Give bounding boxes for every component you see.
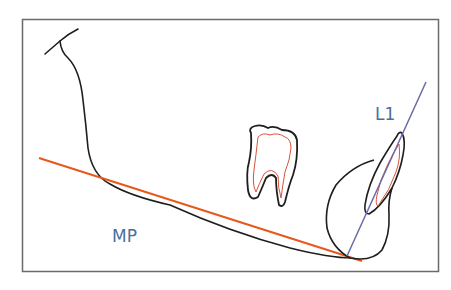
molar-tooth xyxy=(247,125,297,206)
mp-label: MP xyxy=(112,226,137,246)
mandibular-plane-line xyxy=(39,158,362,261)
mandible-outline xyxy=(45,29,352,258)
diagram-frame xyxy=(23,20,439,272)
l1-label: L1 xyxy=(375,104,395,124)
symphysis-outline xyxy=(326,160,392,259)
cephalometric-diagram xyxy=(0,0,451,290)
